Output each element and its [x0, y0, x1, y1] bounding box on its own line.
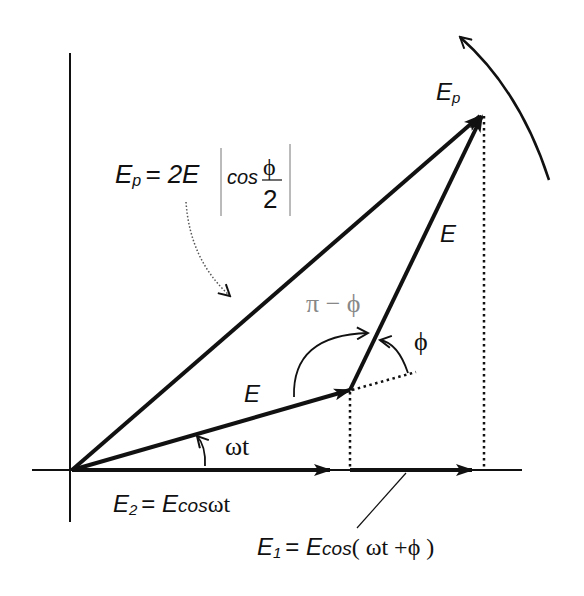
label-e1-equation: E1= Ecos( ωt +ϕ ) — [257, 533, 434, 561]
vector-ep — [72, 116, 480, 470]
svg-text:Ep= 2E: Ep= 2E — [115, 159, 200, 189]
omega-t-angle-arc — [197, 436, 205, 466]
label-omega-t: ωt — [225, 432, 250, 461]
pi-minus-phi-angle-arc — [294, 333, 368, 397]
label-phi: ϕ — [414, 327, 428, 356]
phasor-diagram: Ep Ep= 2E cos ϕ 2 E E π − ϕ ϕ ωt E2= Eco… — [0, 0, 584, 596]
phi-angle-arc — [380, 340, 408, 373]
rotation-arrow-icon — [460, 37, 549, 180]
svg-text:2: 2 — [263, 184, 277, 214]
label-ep-top: Ep — [436, 78, 460, 106]
formula-pointer-arrow-icon — [186, 202, 230, 296]
label-e-lower: E — [244, 380, 261, 407]
label-e-right: E — [440, 220, 457, 247]
svg-text:ϕ: ϕ — [263, 154, 276, 180]
svg-text:cos: cos — [227, 166, 258, 188]
label-pi-minus-phi: π − ϕ — [306, 289, 360, 318]
dotted-extension-e — [352, 372, 416, 390]
label-e2-equation: E2= Ecosωt — [113, 490, 230, 518]
e1-leader-line — [357, 473, 406, 528]
ep-formula: Ep= 2E cos ϕ 2 — [115, 144, 290, 216]
vector-e — [72, 390, 350, 470]
